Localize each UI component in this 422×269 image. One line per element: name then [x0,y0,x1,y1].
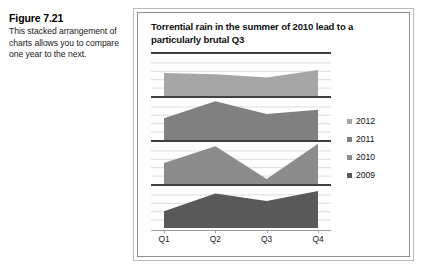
chart-panel-2010 [151,142,331,184]
area-series-2009 [151,186,331,228]
figure-number: Figure 7.21 [9,12,127,25]
legend-swatch-icon [347,119,352,124]
x-axis-line [151,230,331,231]
legend-item-2012[interactable]: 2012 [347,112,399,130]
chart-title: Torrential rain in the summer of 2010 le… [151,20,366,46]
x-axis-tick [318,230,319,233]
x-axis-tick [267,230,268,233]
legend-swatch-icon [347,155,352,160]
figure-caption-block: Figure 7.21 This stacked arrangement of … [9,12,127,61]
legend-label: 2012 [356,116,375,126]
x-axis-label-Q4: Q4 [306,234,330,244]
legend-label: 2010 [356,152,375,162]
chart-panel-2011 [151,98,331,140]
figure-container: Figure 7.21 This stacked arrangement of … [0,0,422,269]
chart-plot-area [151,52,331,230]
figure-caption-text: This stacked arrangement of charts allow… [9,26,127,61]
x-axis-tick [164,230,165,233]
legend-swatch-icon [347,173,352,178]
x-axis-tick [215,230,216,233]
legend-item-2009[interactable]: 2009 [347,166,399,184]
x-axis-tick-labels: Q1Q2Q3Q4 [151,234,336,248]
legend-swatch-icon [347,137,352,142]
area-series-2012 [151,54,331,96]
x-axis-label-Q1: Q1 [152,234,176,244]
area-series-2010 [151,142,331,184]
legend-label: 2011 [356,134,374,144]
legend-item-2011[interactable]: 2011 [347,130,399,148]
chart-panel-2009 [151,186,331,228]
area-series-2011 [151,98,331,140]
legend-label: 2009 [356,170,375,180]
legend-item-2010[interactable]: 2010 [347,148,399,166]
chart-panel-2012 [151,54,331,96]
x-axis-label-Q3: Q3 [255,234,279,244]
chart-legend: 2012201120102009 [347,112,399,184]
x-axis-label-Q2: Q2 [203,234,227,244]
